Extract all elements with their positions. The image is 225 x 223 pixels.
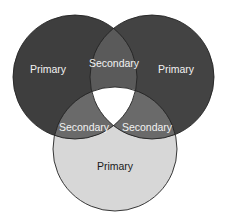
label-primary-bottom: Primary xyxy=(97,160,134,172)
label-secondary-top: Secondary xyxy=(89,57,140,69)
label-primary-top-right: Primary xyxy=(158,63,195,75)
venn-diagram: Primary Primary Primary Secondary Second… xyxy=(0,0,225,223)
label-secondary-bottom-left: Secondary xyxy=(59,121,110,133)
label-secondary-bottom-right: Secondary xyxy=(122,121,173,133)
label-primary-top-left: Primary xyxy=(30,63,67,75)
